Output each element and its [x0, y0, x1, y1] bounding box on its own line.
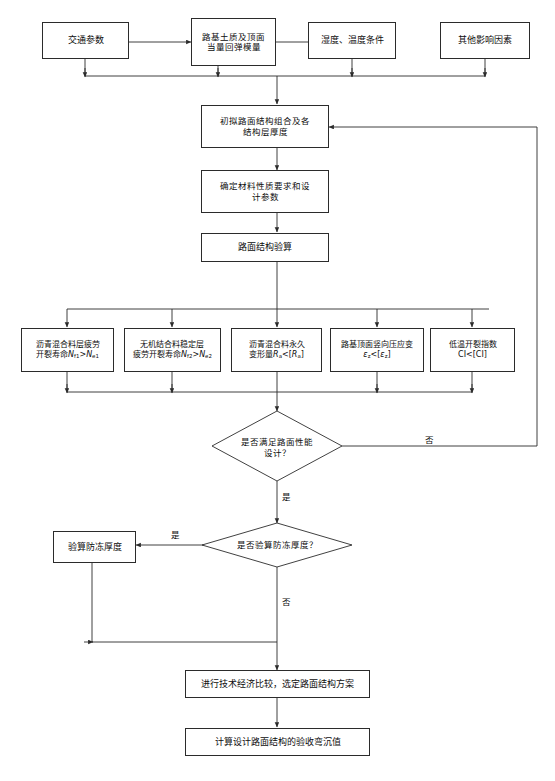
decision-2-label: 是否验算防冻厚度？ — [222, 540, 332, 551]
node-frost-thickness-label: 验算防冻厚度 — [66, 542, 124, 553]
node-deflection-value[interactable]: 计算设计路面结构的验收弯沉值 — [185, 728, 370, 756]
decision-2-shape[interactable] — [0, 0, 555, 781]
edge-label-decision2-no: 否 — [281, 598, 292, 607]
node-deflection-value-label: 计算设计路面结构的验收弯沉值 — [213, 737, 343, 748]
edge-label-decision2-yes: 是 — [170, 531, 181, 540]
node-economic-compare-label: 进行技术经济比较，选定路面结构方案 — [199, 679, 356, 690]
node-economic-compare[interactable]: 进行技术经济比较，选定路面结构方案 — [185, 670, 370, 698]
node-frost-thickness[interactable]: 验算防冻厚度 — [53, 531, 136, 563]
flowchart-canvas: 交通参数 路基土质及顶面当量回弹模量 湿度、温度条件 其他影响因素 初拟路面结构… — [0, 0, 555, 781]
